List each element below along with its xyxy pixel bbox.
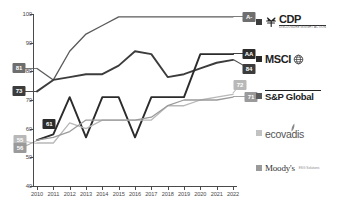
callout-badge-61: 61 xyxy=(43,119,56,129)
legend-sublabel-cdp: DISCLOSURE INSIGHT ACTION xyxy=(279,26,326,30)
legend-sublabel-moodys: ESG Solutions xyxy=(299,166,320,170)
x-tick-2015: 2015 xyxy=(113,191,125,198)
callout-badge-56: 56 xyxy=(14,143,27,153)
x-tick-mark xyxy=(119,187,120,190)
x-tick-2014: 2014 xyxy=(96,191,108,198)
legend-label-sp-global: S&P Global xyxy=(265,91,321,102)
cdp-mark-icon xyxy=(265,16,278,29)
y-tick-mark xyxy=(30,71,33,72)
legend-swatch-cdp xyxy=(256,19,262,25)
msci-globe-icon xyxy=(293,54,304,65)
y-tick-40: 40 xyxy=(6,183,32,189)
legend-label-ecovadis: ecovadis xyxy=(265,128,304,140)
y-tick-mark xyxy=(30,186,33,187)
y-axis-line xyxy=(33,14,34,186)
legend-label-msci: MSCI xyxy=(265,54,291,65)
x-tick-mark xyxy=(151,187,152,190)
x-axis-tick-labels: 2010201120122013201420152016201720182019… xyxy=(34,191,236,207)
y-tick-100: 100 xyxy=(6,11,32,17)
callout-badge-84: 84 xyxy=(243,64,256,74)
callout-badge-aa: AA xyxy=(243,49,256,59)
legend-item-ecovadis[interactable]: ecovadis xyxy=(256,123,340,143)
callout-badge-81: 81 xyxy=(13,63,26,73)
y-tick-mark xyxy=(30,157,33,158)
x-tick-2016: 2016 xyxy=(129,191,141,198)
series-line-cdp xyxy=(37,17,233,80)
x-tick-mark xyxy=(168,187,169,190)
series-lines-svg xyxy=(34,14,236,186)
x-tick-2017: 2017 xyxy=(145,191,157,198)
y-axis-tick-labels: 100908070605040 xyxy=(0,14,32,186)
msci-logo: MSCI xyxy=(265,54,304,65)
legend-swatch-moodys xyxy=(256,165,262,171)
y-tick-mark xyxy=(30,43,33,44)
legend-item-msci[interactable]: MSCI xyxy=(256,49,340,69)
ecovadis-leaf-icon xyxy=(288,123,295,132)
x-tick-2022: 2022 xyxy=(227,191,239,198)
y-tick-mark xyxy=(30,129,33,130)
x-tick-mark xyxy=(102,187,103,190)
moodys-logo: Moody's ESG Solutions xyxy=(265,163,319,174)
x-tick-mark xyxy=(233,187,234,190)
x-tick-2012: 2012 xyxy=(64,191,76,198)
legend-item-sp-global[interactable]: S&P Global xyxy=(256,86,340,106)
y-tick-mark xyxy=(30,100,33,101)
legend-label-cdp: CDP xyxy=(279,14,326,25)
x-tick-2010: 2010 xyxy=(31,191,43,198)
x-tick-2020: 2020 xyxy=(194,191,206,198)
plot-area xyxy=(34,14,236,186)
y-tick-90: 90 xyxy=(6,40,32,46)
x-tick-2018: 2018 xyxy=(162,191,174,198)
x-tick-2019: 2019 xyxy=(178,191,190,198)
x-tick-mark xyxy=(53,187,54,190)
legend-swatch-sp-global xyxy=(256,93,262,99)
chart-legend: CDP DISCLOSURE INSIGHT ACTION MSCI xyxy=(256,8,340,173)
legend-item-moodys[interactable]: Moody's ESG Solutions xyxy=(256,158,340,178)
esg-ratings-chart-figure: 100908070605040 201020112012201320142015… xyxy=(0,0,340,222)
y-tick-mark xyxy=(30,14,33,15)
x-tick-mark xyxy=(37,187,38,190)
chart-panel: 100908070605040 201020112012201320142015… xyxy=(0,0,252,222)
sp-global-logo: S&P Global xyxy=(265,90,321,103)
callout-badge-72: 72 xyxy=(234,80,247,90)
callout-badge-a: A- xyxy=(243,12,256,22)
legend-swatch-ecovadis xyxy=(256,130,262,136)
callout-badge-73: 73 xyxy=(13,86,26,96)
y-tick-50: 50 xyxy=(6,154,32,160)
legend-label-moodys: Moody's xyxy=(265,163,295,174)
legend-swatch-msci xyxy=(256,56,262,62)
x-tick-mark xyxy=(70,187,71,190)
x-tick-mark xyxy=(86,187,87,190)
x-tick-mark xyxy=(135,187,136,190)
x-tick-2021: 2021 xyxy=(211,191,223,198)
x-tick-mark xyxy=(217,187,218,190)
x-tick-2011: 2011 xyxy=(48,191,60,198)
cdp-logo: CDP DISCLOSURE INSIGHT ACTION xyxy=(265,14,326,30)
x-tick-2013: 2013 xyxy=(80,191,92,198)
y-tick-70: 70 xyxy=(6,97,32,103)
x-tick-mark xyxy=(200,187,201,190)
x-tick-mark xyxy=(184,187,185,190)
ecovadis-logo: ecovadis xyxy=(265,124,304,142)
legend-item-cdp[interactable]: CDP DISCLOSURE INSIGHT ACTION xyxy=(256,12,340,32)
y-tick-60: 60 xyxy=(6,126,32,132)
